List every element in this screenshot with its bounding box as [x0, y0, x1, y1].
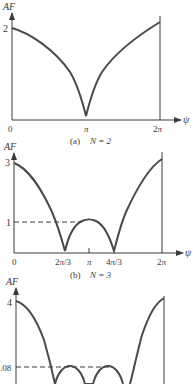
panel-b-xtick-pi: π	[87, 257, 92, 267]
panel-b-xvar: ψ	[185, 247, 192, 258]
panel-a-xvar: ψ	[183, 114, 190, 125]
panel-b-xtick-0: 0	[12, 257, 17, 267]
panel-c-curve	[16, 298, 164, 384]
panel-b-xtick-4pi3: 4π/3	[106, 257, 123, 267]
panel-b-ytick-1: 1	[6, 217, 11, 228]
panel-a-ytick-2: 2	[3, 23, 8, 34]
panel-b-chart: AF 3 1 0 2π/3 π 4π/3 2π ψ (b) N = 3	[3, 141, 192, 280]
panel-a-xtick-2pi: 2π	[153, 124, 163, 134]
panel-a-xtick-pi: π	[84, 124, 89, 134]
panel-b-curve	[14, 159, 162, 251]
panel-c-chart: AF 4 .08	[0, 276, 164, 384]
panel-b-caption-prefix: (b)	[70, 270, 81, 280]
panel-a-caption-prefix: (a)	[70, 136, 80, 146]
panel-b-ytick-3: 3	[5, 157, 10, 168]
panel-a-xtick-0: 0	[8, 124, 13, 134]
panel-a-caption-n: N = 2	[89, 136, 112, 146]
panel-a-ylabel: AF	[2, 1, 16, 12]
array-factor-figure: AF 2 0 π 2π ψ (a) N = 2 AF 3 1 0 2π/3 π …	[0, 0, 193, 384]
panel-a-chart: AF 2 0 π 2π ψ (a) N = 2	[2, 1, 190, 146]
panel-a-curve	[12, 22, 160, 116]
panel-c-ytick-108: .08	[0, 363, 12, 373]
panel-b-caption-n: N = 3	[89, 270, 112, 280]
panel-c-ytick-4: 4	[7, 297, 12, 308]
panel-b-xtick-2pi3: 2π/3	[55, 257, 72, 267]
panel-b-ylabel: AF	[3, 141, 17, 152]
panel-c-ylabel: AF	[5, 276, 19, 287]
panel-b-xtick-2pi: 2π	[157, 257, 167, 267]
